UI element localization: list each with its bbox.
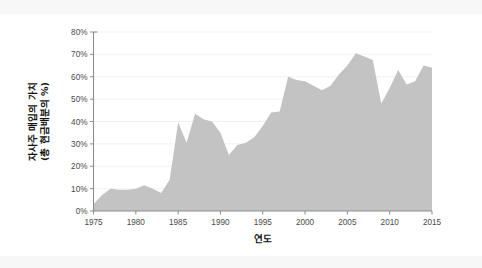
y-tick-label-30: 30% [71, 140, 87, 149]
x-tick-label-2015: 2015 [423, 218, 442, 227]
y-tick-label-40: 40% [71, 118, 87, 127]
x-tick-label-1995: 1995 [254, 218, 273, 227]
plot-wrapper: 197519801985199019952000200520102015 0%1… [0, 0, 482, 268]
x-axis-title: 연도 [254, 233, 272, 244]
x-tick-label-1975: 1975 [84, 218, 103, 227]
y-axis-title-line1: 자사주 매입의 가치 [27, 82, 38, 161]
x-tick-label-1980: 1980 [127, 218, 146, 227]
y-axis-title-line2: (총 현금배분의 %) [39, 82, 50, 161]
area-chart: 197519801985199019952000200520102015 0%1… [0, 0, 482, 268]
y-tick-label-0: 0% [76, 207, 88, 216]
y-tick-label-80: 80% [71, 28, 87, 37]
x-tick-label-2005: 2005 [338, 218, 357, 227]
x-tick-label-1985: 1985 [169, 218, 188, 227]
y-tick-label-70: 70% [71, 50, 87, 59]
y-tick-label-60: 60% [71, 73, 87, 82]
y-tick-label-20: 20% [71, 162, 87, 171]
x-tick-label-2000: 2000 [296, 218, 315, 227]
y-axis-ticks: 0%10%20%30%40%50%60%70%80% [71, 28, 93, 216]
x-axis-ticks: 197519801985199019952000200520102015 [84, 211, 441, 227]
x-tick-label-1990: 1990 [211, 218, 230, 227]
x-tick-label-2010: 2010 [381, 218, 400, 227]
y-tick-label-10: 10% [71, 185, 87, 194]
y-tick-label-50: 50% [71, 95, 87, 104]
chart-figure: 197519801985199019952000200520102015 0%1… [0, 0, 482, 268]
